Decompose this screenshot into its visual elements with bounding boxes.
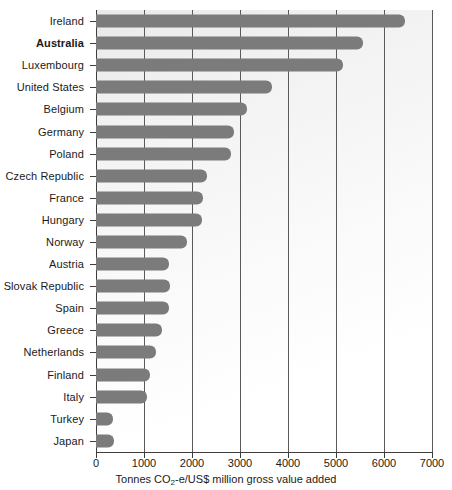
bar-row: Greece [0, 319, 452, 341]
bar-row: Finland [0, 364, 452, 386]
bar-czech-republic [96, 169, 207, 182]
x-axis-title-before: Tonnes CO [116, 473, 171, 485]
bar-chart: IrelandAustraliaLuxembourgUnited StatesB… [0, 0, 452, 490]
bar-italy [96, 390, 147, 403]
bar-united-states [96, 81, 272, 94]
bar-greece [96, 324, 162, 337]
bar-slovak-republic [96, 280, 170, 293]
x-axis-tick-label-2000: 2000 [180, 457, 204, 470]
category-label-luxembourg: Luxembourg [22, 59, 84, 71]
category-label-ireland: Ireland [50, 15, 84, 27]
x-axis-tick-label-7000: 7000 [420, 457, 444, 470]
bar-turkey [96, 412, 113, 425]
bar-australia [96, 37, 363, 50]
x-axis-title: Tonnes CO2-e/US$ million gross value add… [0, 473, 452, 485]
category-label-poland: Poland [49, 148, 84, 160]
category-label-netherlands: Netherlands [24, 346, 84, 358]
bar-row: Turkey [0, 408, 452, 430]
bar-row: Belgium [0, 98, 452, 120]
bar-row: Germany [0, 120, 452, 142]
category-label-united-states: United States [17, 81, 84, 93]
category-label-italy: Italy [63, 391, 84, 403]
bar-row: Spain [0, 297, 452, 319]
bar-finland [96, 368, 150, 381]
bar-france [96, 191, 203, 204]
category-label-australia: Australia [36, 37, 84, 49]
bar-poland [96, 147, 231, 160]
category-label-spain: Spain [55, 302, 84, 314]
bar-row: Austria [0, 253, 452, 275]
bar-row: Poland [0, 143, 452, 165]
bar-row: Norway [0, 231, 452, 253]
category-label-slovak-republic: Slovak Republic [4, 280, 84, 292]
bar-ireland [96, 15, 405, 28]
bar-row: Luxembourg [0, 54, 452, 76]
x-axis-tick-label-6000: 6000 [372, 457, 396, 470]
bar-row: Ireland [0, 10, 452, 32]
x-axis-title-subscript: 2 [171, 478, 175, 487]
bar-austria [96, 258, 169, 271]
bar-hungary [96, 213, 202, 226]
category-label-belgium: Belgium [44, 103, 84, 115]
bar-row: Australia [0, 32, 452, 54]
bar-belgium [96, 103, 247, 116]
category-label-japan: Japan [54, 435, 84, 447]
bar-row: France [0, 187, 452, 209]
category-label-france: France [49, 192, 84, 204]
category-label-hungary: Hungary [42, 214, 84, 226]
category-label-norway: Norway [46, 236, 84, 248]
category-label-turkey: Turkey [50, 413, 84, 425]
bar-luxembourg [96, 59, 343, 72]
bar-row: Netherlands [0, 341, 452, 363]
bar-japan [96, 434, 114, 447]
x-axis-tick-label-3000: 3000 [228, 457, 252, 470]
category-label-czech-republic: Czech Republic [6, 170, 84, 182]
x-axis-tick-label-0: 0 [93, 457, 99, 470]
category-label-finland: Finland [47, 369, 84, 381]
x-axis-tick-label-5000: 5000 [324, 457, 348, 470]
x-axis-tick-label-4000: 4000 [276, 457, 300, 470]
category-label-greece: Greece [47, 324, 84, 336]
bar-netherlands [96, 346, 156, 359]
category-label-austria: Austria [49, 258, 84, 270]
bar-norway [96, 235, 187, 248]
bar-row: United States [0, 76, 452, 98]
category-label-germany: Germany [38, 126, 84, 138]
bar-row: Italy [0, 386, 452, 408]
bar-germany [96, 125, 234, 138]
x-axis-tick-label-1000: 1000 [132, 457, 156, 470]
bar-spain [96, 302, 169, 315]
bar-row: Czech Republic [0, 165, 452, 187]
bar-row: Japan [0, 430, 452, 452]
bar-row: Slovak Republic [0, 275, 452, 297]
bar-rows: IrelandAustraliaLuxembourgUnited StatesB… [0, 10, 452, 452]
bar-row: Hungary [0, 209, 452, 231]
x-axis-title-after: -e/US$ million gross value added [175, 473, 336, 485]
